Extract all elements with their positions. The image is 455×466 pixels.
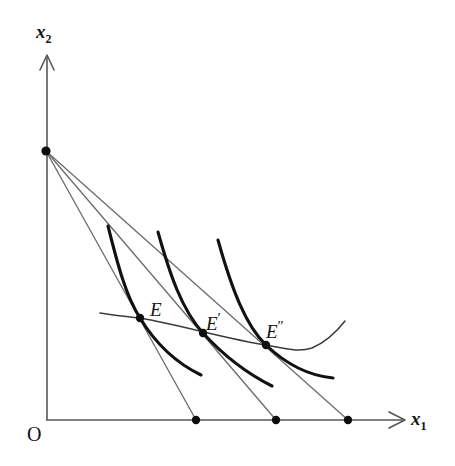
indifference-curve-3 bbox=[218, 240, 333, 378]
equilibrium-label-E-base: E bbox=[150, 299, 162, 320]
axes-group bbox=[40, 55, 405, 428]
origin-label: O bbox=[27, 424, 41, 444]
equilibrium-label-E-prime-base: E bbox=[206, 313, 218, 334]
indifference-curve-2 bbox=[158, 232, 272, 386]
budget-2-x-intercept bbox=[272, 416, 280, 424]
figure-root: x2 x1 O E E′ E″ bbox=[0, 0, 455, 466]
budget-line-3 bbox=[46, 151, 348, 420]
equilibrium-point-E bbox=[136, 314, 144, 322]
diagram-canvas bbox=[0, 0, 455, 466]
budget-lines-group bbox=[46, 151, 348, 420]
equilibrium-label-E-double-prime: E″ bbox=[266, 319, 284, 341]
endowment-point bbox=[41, 146, 50, 155]
equilibrium-label-E: E bbox=[150, 297, 162, 319]
budget-line-2 bbox=[46, 151, 276, 420]
equilibrium-label-E-double-prime-marks: ″ bbox=[278, 318, 284, 334]
y-axis-label: x2 bbox=[36, 22, 52, 45]
equilibrium-label-E-prime: E′ bbox=[206, 311, 221, 333]
y-axis-label-subscript: 2 bbox=[46, 32, 52, 46]
equilibrium-label-E-double-prime-base: E bbox=[266, 321, 278, 342]
budget-line-1 bbox=[46, 151, 196, 420]
equilibrium-label-E-prime-marks: ′ bbox=[218, 310, 221, 326]
y-axis-label-base: x bbox=[36, 21, 46, 42]
x-axis-label: x1 bbox=[411, 409, 427, 432]
budget-3-x-intercept bbox=[344, 416, 352, 424]
budget-1-x-intercept bbox=[192, 416, 200, 424]
x-axis-label-subscript: 1 bbox=[421, 419, 427, 433]
x-axis-label-base: x bbox=[411, 408, 421, 429]
